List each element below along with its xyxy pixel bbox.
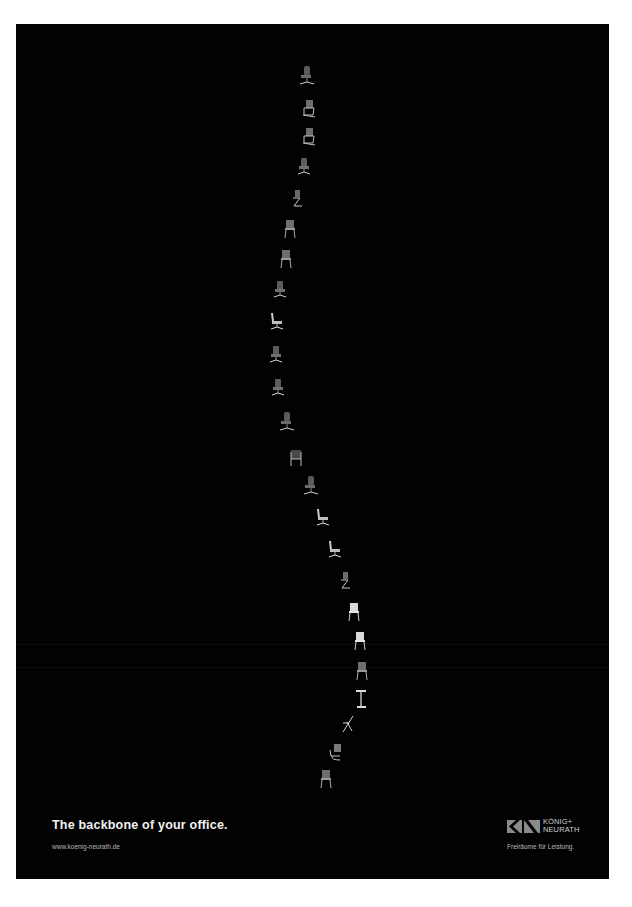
chair-icon [296,157,313,176]
chair-icon [318,770,335,789]
chair-swivel-side [314,508,331,527]
chair-icon [340,716,357,735]
chair-icon [288,190,305,209]
chair-swivel-side [326,540,343,559]
chair-icon [272,280,289,299]
poster: The backbone of your office. www.koenig-… [16,24,609,879]
chair-icon [326,540,343,559]
chair-swivel [296,157,313,176]
chair-spine [16,24,609,879]
chair-cantilever-side [336,572,353,591]
chair-icon [354,690,371,709]
chair-icon [302,476,319,495]
chair-swivel-highback [278,412,295,431]
chair-icon [336,572,353,591]
chair-stool [354,690,371,709]
chair-icon [270,378,287,397]
chair-cantilever [300,128,317,147]
chair-icon [300,100,317,119]
chair-swivel-highback [298,66,315,85]
chair-four-leg [278,250,295,269]
chair-swivel-highback [302,476,319,495]
brand-line-2: NEURATH [543,826,579,834]
chair-icon [278,250,295,269]
tagline: Freiräume für Leistung. [507,843,574,850]
chair-four-leg [354,662,371,681]
chair-swivel [270,378,287,397]
chair-icon [300,128,317,147]
chair-icon [278,412,295,431]
kn-logo-icon [507,820,540,833]
chair-swivel-side [268,312,285,331]
chair-icon [352,632,369,651]
website-link[interactable]: www.koenig-neurath.de [52,843,120,850]
brand-name: KÖNIG+ NEURATH [543,818,579,833]
brand-logo: KÖNIG+ NEURATH [507,818,597,836]
chair-icon [268,345,285,364]
chair-cantilever [300,100,317,119]
chair-icon [288,450,305,469]
chair-cantilever-lounge [328,744,345,763]
chair-four-leg-white [352,632,369,651]
chair-four-leg [282,220,299,239]
chair-icon [268,312,285,331]
chair-cantilever-side [288,190,305,209]
chair-icon [314,508,331,527]
chair-icon [328,744,345,763]
chair-four-leg [318,770,335,789]
chair-icon [282,220,299,239]
chair-swivel [268,345,285,364]
chair-icon [354,662,371,681]
chair-four-leg-white [346,603,363,622]
chair-icon [346,603,363,622]
chair-sled [288,450,305,469]
chair-icon [298,66,315,85]
chair-folding [340,716,357,735]
headline: The backbone of your office. [52,818,228,832]
chair-swivel [272,280,289,299]
